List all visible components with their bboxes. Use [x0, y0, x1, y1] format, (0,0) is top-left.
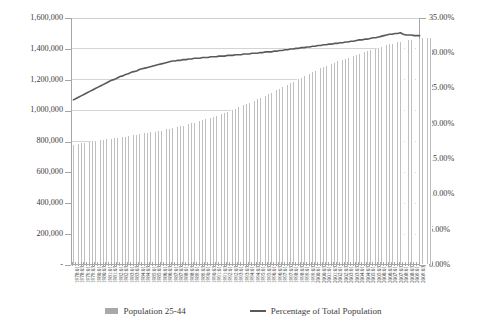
x-axis-tick	[119, 262, 120, 266]
x-axis-tick	[235, 262, 236, 266]
x-axis-tick	[273, 262, 274, 266]
x-axis-tick	[295, 262, 296, 266]
x-axis-tick	[108, 262, 109, 266]
y-axis-left: -200,000400,000600,000800,0001,000,0001,…	[0, 0, 68, 326]
x-axis-tick	[344, 262, 345, 266]
x-axis-tick	[366, 262, 367, 266]
legend-label-population: Population 25-44	[123, 306, 185, 316]
x-axis-tick	[306, 262, 307, 266]
y-axis-left-tick-label: -	[60, 261, 63, 269]
x-axis-tick	[328, 262, 329, 266]
y-axis-right-tick-label: 5.00%	[429, 226, 450, 234]
x-axis-tick	[300, 262, 301, 266]
x-axis-tick	[289, 262, 290, 266]
x-axis-tick	[97, 262, 98, 266]
x-axis-tick	[372, 262, 373, 266]
x-axis-tick	[213, 262, 214, 266]
y-axis-left-tick-label: 400,000	[36, 199, 63, 207]
x-axis-tick	[377, 262, 378, 266]
bar-swatch-icon	[105, 308, 118, 314]
x-axis-tick	[92, 262, 93, 266]
y-axis-left-tick-label: 1,400,000	[30, 45, 63, 53]
x-axis-tick	[416, 262, 417, 266]
chart-container: -200,000400,000600,000800,0001,000,0001,…	[0, 0, 487, 326]
legend-item-percentage: Percentage of Total Population	[250, 306, 382, 316]
x-axis-tick	[125, 262, 126, 266]
x-axis-tick	[75, 262, 76, 266]
line-series	[72, 18, 421, 265]
x-axis-tick	[405, 262, 406, 266]
x-axis-tick	[317, 262, 318, 266]
x-axis-tick	[240, 262, 241, 266]
x-axis-tick	[278, 262, 279, 266]
x-axis-tick	[191, 262, 192, 266]
x-axis-tick	[141, 262, 142, 266]
x-axis-tick	[251, 262, 252, 266]
x-axis-tick	[136, 262, 137, 266]
x-axis-tick	[339, 262, 340, 266]
y-axis-right-tick-label: 25.00%	[429, 84, 454, 92]
x-axis-tick	[284, 262, 285, 266]
y-axis-left-tick-label: 200,000	[36, 230, 63, 238]
y-axis-left-tick-label: 1,200,000	[30, 76, 63, 84]
y-axis-right-tick-label: 10.00%	[429, 190, 454, 198]
x-axis-tick	[169, 262, 170, 266]
x-axis-tick	[152, 262, 153, 266]
y-axis-right-tick-label: 0.00%	[429, 261, 450, 269]
x-axis-tick	[355, 262, 356, 266]
x-axis-tick	[147, 262, 148, 266]
x-axis-tick	[158, 262, 159, 266]
x-axis-tick	[311, 262, 312, 266]
x-axis-tick	[185, 262, 186, 266]
x-axis-tick	[256, 262, 257, 266]
x-axis-tick	[218, 262, 219, 266]
x-axis-tick	[350, 262, 351, 266]
x-axis-tick	[267, 262, 268, 266]
x-axis-tick	[207, 262, 208, 266]
x-axis-tick	[196, 262, 197, 266]
x-axis-tick	[333, 262, 334, 266]
x-axis-tick	[410, 262, 411, 266]
y-axis-right-tick-label: 35.00%	[429, 14, 454, 22]
x-axis-tick	[202, 262, 203, 266]
x-axis-tick	[388, 262, 389, 266]
y-axis-right-tick-label: 20.00%	[429, 120, 454, 128]
x-axis-tick	[262, 262, 263, 266]
x-axis-tick	[229, 262, 230, 266]
x-axis-tick	[81, 262, 82, 266]
x-axis-tick	[246, 262, 247, 266]
x-axis-tick	[322, 262, 323, 266]
legend-label-percentage: Percentage of Total Population	[271, 306, 382, 316]
x-axis-tick	[394, 262, 395, 266]
legend-item-population: Population 25-44	[105, 306, 185, 316]
x-axis-tick	[361, 262, 362, 266]
y-axis-left-tick-label: 1,000,000	[30, 106, 63, 114]
y-axis-left-tick-label: 600,000	[36, 168, 63, 176]
x-axis-tick	[114, 262, 115, 266]
x-axis-tick	[383, 262, 384, 266]
x-axis-tick	[174, 262, 175, 266]
chart-legend: Population 25-44 Percentage of Total Pop…	[0, 303, 487, 319]
bar	[429, 38, 432, 264]
x-axis-tick	[163, 262, 164, 266]
x-axis-tick-label: 2009:03	[421, 266, 426, 283]
x-axis-tick	[130, 262, 131, 266]
line-swatch-icon	[250, 310, 266, 312]
x-axis-tick	[224, 262, 225, 266]
plot-area	[71, 18, 420, 265]
x-axis-tick	[103, 262, 104, 266]
y-axis-right-tick-label: 15.00%	[429, 155, 454, 163]
y-axis-left-tick-label: 800,000	[36, 137, 63, 145]
x-axis-tick	[180, 262, 181, 266]
y-axis-right-tick-label: 30.00%	[429, 49, 454, 57]
x-axis-tick	[86, 262, 87, 266]
x-axis-tick	[399, 262, 400, 266]
y-axis-left-tick-label: 1,600,000	[30, 14, 63, 22]
